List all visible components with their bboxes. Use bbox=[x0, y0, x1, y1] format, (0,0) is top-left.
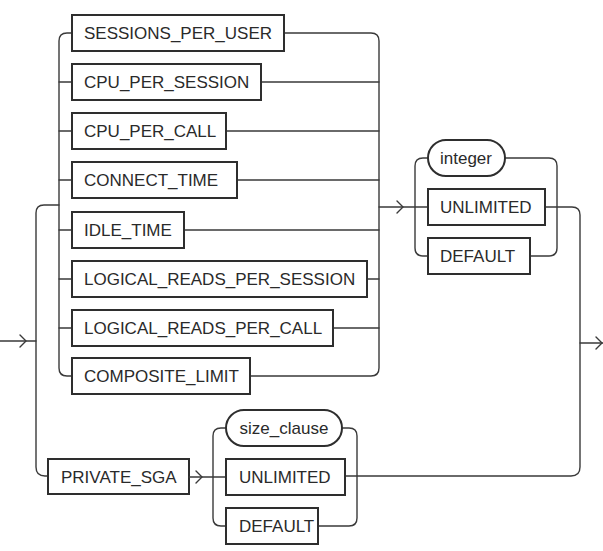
option-sessions-per-user: SESSIONS_PER_USER bbox=[72, 15, 284, 51]
keyword-private-sga: PRIVATE_SGA bbox=[48, 459, 189, 494]
syntax-diagram: SESSIONS_PER_USER CPU_PER_SESSION CPU_PE… bbox=[0, 0, 603, 551]
value-unlimited: UNLIMITED bbox=[428, 189, 545, 225]
outer-left-rail bbox=[36, 205, 59, 476]
svg-text:SESSIONS_PER_USER: SESSIONS_PER_USER bbox=[84, 24, 272, 43]
value-default: DEFAULT bbox=[428, 238, 530, 274]
svg-text:integer: integer bbox=[440, 149, 492, 168]
svg-text:UNLIMITED: UNLIMITED bbox=[239, 468, 331, 487]
exit-arrow bbox=[580, 337, 603, 349]
option-logical-reads-per-call: LOGICAL_READS_PER_CALL bbox=[72, 310, 333, 346]
option-composite-limit: COMPOSITE_LIMIT bbox=[72, 358, 250, 394]
option-cpu-per-session: CPU_PER_SESSION bbox=[72, 64, 261, 100]
resource-left-rail bbox=[59, 33, 72, 376]
option-connect-time: CONNECT_TIME bbox=[72, 162, 237, 198]
option-idle-time: IDLE_TIME bbox=[72, 212, 184, 248]
value-default-sga: DEFAULT bbox=[226, 508, 318, 544]
svg-text:CPU_PER_CALL: CPU_PER_CALL bbox=[84, 122, 216, 141]
value-unlimited-sga: UNLIMITED bbox=[226, 459, 345, 495]
svg-text:LOGICAL_READS_PER_SESSION: LOGICAL_READS_PER_SESSION bbox=[84, 270, 355, 289]
svg-text:COMPOSITE_LIMIT: COMPOSITE_LIMIT bbox=[84, 367, 239, 386]
svg-text:LOGICAL_READS_PER_CALL: LOGICAL_READS_PER_CALL bbox=[84, 319, 322, 338]
value-integer: integer bbox=[428, 140, 505, 176]
svg-text:CPU_PER_SESSION: CPU_PER_SESSION bbox=[84, 73, 249, 92]
option-cpu-per-call: CPU_PER_CALL bbox=[72, 113, 226, 149]
svg-text:PRIVATE_SGA: PRIVATE_SGA bbox=[61, 468, 177, 487]
entry-arrow bbox=[0, 335, 36, 347]
svg-text:CONNECT_TIME: CONNECT_TIME bbox=[84, 171, 218, 190]
option-logical-reads-per-session: LOGICAL_READS_PER_SESSION bbox=[72, 261, 367, 297]
svg-text:UNLIMITED: UNLIMITED bbox=[440, 198, 532, 217]
svg-text:DEFAULT: DEFAULT bbox=[440, 247, 515, 266]
svg-text:size_clause: size_clause bbox=[240, 419, 329, 438]
svg-text:IDLE_TIME: IDLE_TIME bbox=[84, 221, 172, 240]
svg-text:DEFAULT: DEFAULT bbox=[239, 517, 314, 536]
value-size-clause: size_clause bbox=[226, 410, 342, 446]
resource-to-value-connector bbox=[379, 201, 428, 213]
private-sga-connector bbox=[189, 471, 226, 483]
